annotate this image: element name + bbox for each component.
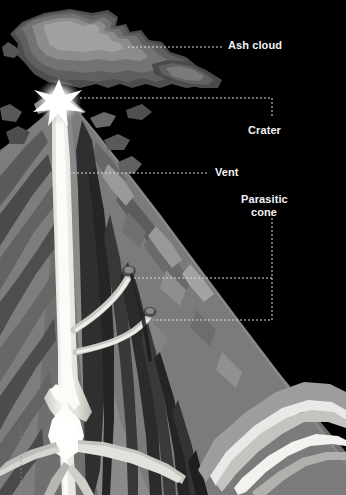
- label-parasitic-cone-line2: cone: [251, 206, 277, 219]
- label-vent: Vent: [215, 166, 239, 179]
- volcano-illustration: [0, 0, 346, 495]
- label-parasitic-cone-line1: Parasitic: [241, 193, 288, 206]
- label-ash-cloud: Ash cloud: [228, 39, 282, 52]
- volcano-diagram: Ash cloud Crater Vent Parasitic cone: [0, 0, 346, 495]
- label-crater: Crater: [248, 124, 281, 137]
